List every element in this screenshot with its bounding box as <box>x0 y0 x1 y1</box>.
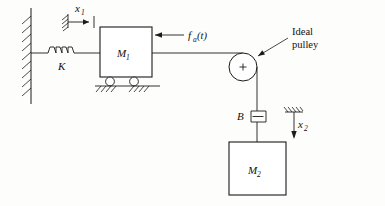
applied-force-argument: (t) <box>197 30 207 42</box>
wall-hatching <box>22 16 31 96</box>
applied-force-arrow <box>155 32 184 38</box>
spring-label: K <box>57 60 66 72</box>
displacement-x1-reference <box>62 14 94 31</box>
pulley-leader-line <box>258 38 288 56</box>
mass-m1-subscript: 1 <box>126 53 130 62</box>
spring-element <box>31 47 100 53</box>
wall-support <box>22 8 31 104</box>
pulley-label-line2: pulley <box>292 39 319 50</box>
displacement-x2-label: x <box>297 118 303 130</box>
ground-hatching <box>96 86 149 92</box>
ideal-pulley <box>229 53 257 81</box>
pulley-leader-arrowhead <box>258 50 265 56</box>
displacement-x1-label: x <box>74 2 80 14</box>
ground-support <box>95 86 160 92</box>
x1-arrowhead <box>83 19 89 24</box>
damper-element <box>251 111 266 122</box>
pulley-label-line1: Ideal <box>292 26 313 37</box>
mechanical-system-diagram: K x 1 M 1 <box>0 0 385 206</box>
roller-supports <box>106 77 139 86</box>
mass-m2-subscript: 2 <box>257 170 261 179</box>
mass-m2-block <box>229 142 286 195</box>
damper-label: B <box>237 110 244 122</box>
force-arrowhead <box>155 32 162 38</box>
displacement-x2-subscript: 2 <box>304 124 308 133</box>
x2-arrowhead <box>291 131 296 139</box>
figure-canvas: K x 1 M 1 <box>0 0 385 206</box>
displacement-x1-subscript: 1 <box>81 8 85 17</box>
